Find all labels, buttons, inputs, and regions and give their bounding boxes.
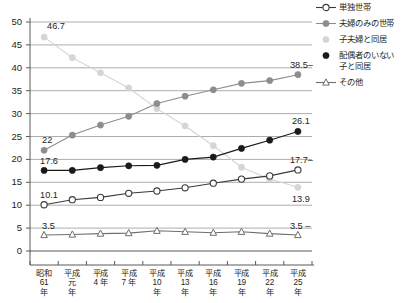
legend-item[interactable]: 子夫婦と同居 [316,34,411,45]
legend-item[interactable]: その他 [316,77,411,88]
series-marker [295,167,301,173]
series-marker [295,184,301,190]
legend-marker-icon [316,50,336,61]
series-marker [126,85,132,91]
data-point-label: 3.5 [42,221,55,231]
series-marker [69,132,75,138]
series-marker [97,165,103,171]
y-tick-label: 25 [0,131,22,142]
y-tick-label: 5 [0,222,22,233]
x-tick-label: 平成 25 年 [290,269,306,297]
y-tick-label: 10 [0,199,22,210]
series-marker [126,190,132,196]
series-line [44,75,298,151]
series-marker [126,113,132,119]
series-marker [295,72,301,78]
x-tick-label: 平成 元 年 [64,269,80,297]
series-marker [69,55,75,61]
legend-item[interactable]: 単独世帯 [316,2,411,13]
y-tick-label: 0 [0,245,22,256]
series-marker [210,180,216,186]
series-marker [267,173,273,179]
series-marker [238,80,244,86]
legend-item-label: 夫婦のみの世帯 [339,18,394,29]
y-tick-label: 45 [0,39,22,50]
legend-marker-icon [316,34,336,45]
series-marker [210,154,216,160]
series-marker [97,194,103,200]
x-tick-label: 平成 4 年 [93,269,109,288]
series-marker [97,70,103,76]
series-marker [154,162,160,168]
y-tick-label: 15 [0,176,22,187]
series-marker [238,164,244,170]
y-tick-label: 35 [0,85,22,96]
legend-item-label: その他 [339,77,363,88]
x-tick-label: 平成 13 年 [177,269,193,297]
x-tick-label: 平成 10 年 [149,269,165,297]
data-point-label: 17.6 [40,156,58,166]
series-marker [69,167,75,173]
legend-item-label: 単独世帯 [339,2,371,13]
y-tick-label: 20 [0,153,22,164]
series-marker [126,163,132,169]
series-marker [41,202,47,208]
line-chart: 05101520253035404550 昭和 61 年平成 元 年平成 4 年… [0,0,411,303]
data-point-label: 17.7– [290,155,313,165]
series-line [44,132,298,171]
legend-marker-icon [316,2,336,13]
data-point-label: 3.5 – [290,221,310,231]
series-marker [41,167,47,173]
series-marker [182,156,188,162]
data-point-label: 26.1 [292,116,310,126]
series-marker [267,78,273,84]
data-point-label: 38.5– [290,60,313,70]
series-marker [41,34,47,40]
series-marker [267,137,273,143]
series-marker [238,228,245,234]
legend-item-label: 子夫婦と同居 [339,34,386,45]
series-marker [182,123,188,129]
legend-item[interactable]: 夫婦のみの世帯 [316,18,411,29]
legend-marker-icon [316,18,336,29]
legend-item-label: 配偶者のいない 子と同居 [339,50,394,72]
series-marker [154,100,160,106]
x-tick-label: 昭和 61 年 [36,269,52,297]
series-marker [41,147,47,153]
data-point-label: 46.7 [47,21,65,31]
y-tick-label: 30 [0,108,22,119]
series-marker [238,176,244,182]
series-marker [97,122,103,128]
y-tick-label: 40 [0,62,22,73]
legend-item[interactable]: 配偶者のいない 子と同居 [316,50,411,72]
series-line [44,231,298,235]
x-tick-label: 平成 19 年 [234,269,250,297]
series-marker [238,145,244,151]
legend-marker-icon [316,77,336,88]
series-marker [210,87,216,93]
series-marker [210,143,216,149]
data-point-label: 10.1 [40,190,58,200]
x-tick-label: 平成 22 年 [262,269,278,297]
series-marker [69,197,75,203]
series-marker [182,185,188,191]
data-point-label: 22 [42,135,52,145]
chart-legend: 単独世帯夫婦のみの世帯子夫婦と同居配偶者のいない 子と同居その他 [316,2,411,93]
series-marker [182,93,188,99]
y-tick-label: 50 [0,16,22,27]
data-point-label: 13.9 [292,194,310,204]
series-line [44,37,298,187]
x-tick-label: 平成 7 年 [121,269,137,288]
series-marker [295,128,301,134]
series-marker [154,188,160,194]
x-tick-label: 平成 16 年 [205,269,221,297]
